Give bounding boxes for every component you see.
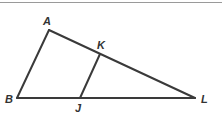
triangle-figure: A B J K L (0, 0, 222, 121)
point-label-j: J (75, 102, 82, 114)
segment-al (49, 30, 195, 98)
segment-jk (80, 54, 100, 98)
vertex-label-b: B (5, 93, 13, 105)
vertex-label-a: A (42, 15, 51, 27)
triangle-diagram: A B J K L (0, 0, 222, 121)
point-label-k: K (97, 39, 106, 51)
vertex-label-l: L (201, 93, 208, 105)
segment-ab (17, 30, 49, 98)
